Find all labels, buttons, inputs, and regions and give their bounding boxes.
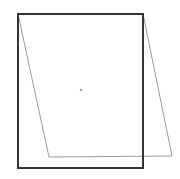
- diagram-canvas: [0, 0, 180, 179]
- diagram-background: [0, 0, 180, 179]
- center-point: [80, 89, 82, 91]
